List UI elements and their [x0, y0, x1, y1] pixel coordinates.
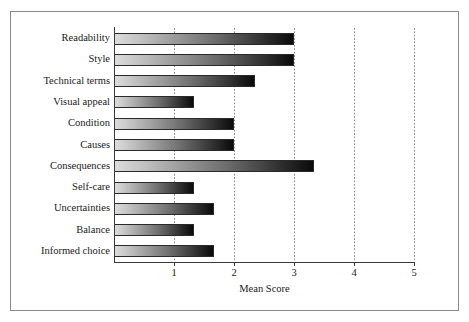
- bar-row: [114, 160, 414, 172]
- category-label-consequences: Consequences: [14, 160, 110, 171]
- category-label-readability: Readability: [14, 32, 110, 43]
- category-label-condition: Condition: [14, 117, 110, 128]
- bar-row: [114, 54, 414, 66]
- bar-row: [114, 118, 414, 130]
- category-label-balance: Balance: [14, 224, 110, 235]
- x-axis-line: [114, 262, 415, 263]
- category-label-style: Style: [14, 53, 110, 64]
- bar-uncertainties[interactable]: [114, 203, 214, 215]
- bar-balance[interactable]: [114, 224, 194, 236]
- bar-row: [114, 182, 414, 194]
- bar-technical-terms[interactable]: [114, 75, 255, 87]
- bar-readability[interactable]: [114, 33, 294, 45]
- category-label-self-care: Self-care: [14, 181, 110, 192]
- x-tick-label: 1: [162, 266, 186, 279]
- bar-row: [114, 96, 414, 108]
- plot-area: [114, 28, 414, 262]
- bar-row: [114, 203, 414, 215]
- bar-row: [114, 33, 414, 45]
- bar-chart: ReadabilityStyleTechnical termsVisual ap…: [0, 0, 469, 322]
- bar-consequences[interactable]: [114, 160, 314, 172]
- x-tick-label: 4: [342, 266, 366, 279]
- x-tick-label: 2: [222, 266, 246, 279]
- bar-row: [114, 245, 414, 257]
- bar-informed-choice[interactable]: [114, 245, 214, 257]
- y-axis-line: [114, 27, 115, 263]
- bar-row: [114, 139, 414, 151]
- x-tick-label: 3: [282, 266, 306, 279]
- bar-row: [114, 75, 414, 87]
- x-axis-title: Mean Score: [114, 283, 415, 294]
- category-label-causes: Causes: [14, 139, 110, 150]
- x-tick-label: 5: [402, 266, 426, 279]
- bar-row: [114, 224, 414, 236]
- bar-causes[interactable]: [114, 139, 234, 151]
- bar-visual-appeal[interactable]: [114, 96, 194, 108]
- category-label-technical-terms: Technical terms: [14, 75, 110, 86]
- category-label-informed-choice: Informed choice: [14, 245, 110, 256]
- bar-condition[interactable]: [114, 118, 234, 130]
- gridline-5: [414, 28, 415, 262]
- category-label-visual-appeal: Visual appeal: [14, 96, 110, 107]
- bar-style[interactable]: [114, 54, 294, 66]
- bar-self-care[interactable]: [114, 182, 194, 194]
- category-label-uncertainties: Uncertainties: [14, 202, 110, 213]
